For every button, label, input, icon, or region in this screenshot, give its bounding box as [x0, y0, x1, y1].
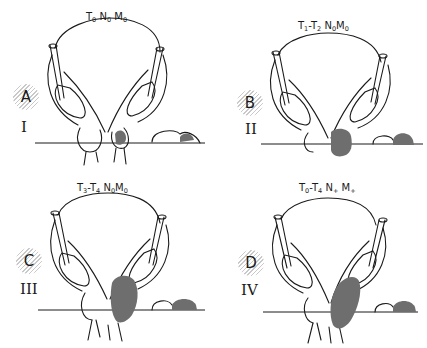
anatomy-drawing-a	[0, 0, 213, 165]
panel-b: T1-T2 N0M0 B II	[213, 0, 426, 165]
panel-a: T0 N0 M0 A I	[0, 0, 213, 165]
anatomy-drawing-d	[213, 165, 426, 348]
panel-c: T3-T4 N0M0 C III	[0, 165, 213, 330]
anatomy-drawing-c	[0, 165, 213, 348]
figure-caption-truncated	[6, 341, 426, 348]
anatomy-drawing-b	[213, 0, 426, 165]
panel-d: T0-T4 N+ M+ D IV	[213, 165, 426, 330]
